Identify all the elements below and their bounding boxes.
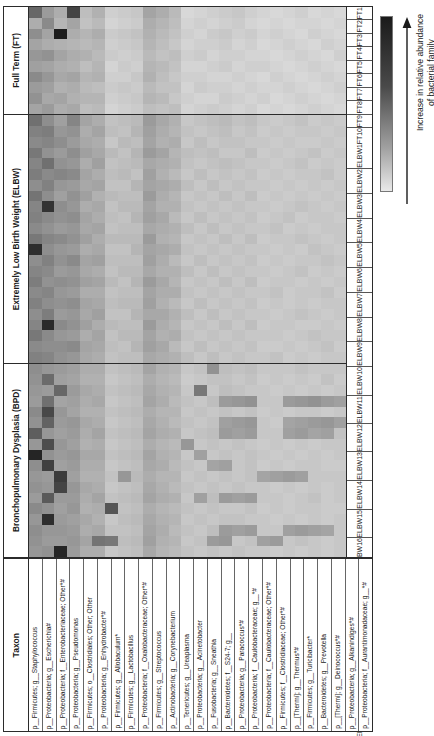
heatmap-cell <box>181 287 194 298</box>
heatmap-row <box>29 126 346 137</box>
heatmap-cell <box>156 180 169 191</box>
heatmap-cell <box>80 514 93 525</box>
heatmap-cell <box>118 180 131 191</box>
heatmap-row <box>29 374 346 385</box>
heatmap-cell <box>232 72 245 83</box>
heatmap-cell <box>270 29 283 40</box>
heatmap-cell <box>219 407 232 418</box>
heatmap-cell <box>118 417 131 428</box>
heatmap-cell <box>92 148 105 159</box>
heatmap-cell <box>105 525 118 536</box>
heatmap-cell <box>245 385 258 396</box>
heatmap-cell <box>295 514 308 525</box>
heatmap-cell <box>321 277 334 288</box>
heatmap-cell <box>143 396 156 407</box>
heatmap-cell <box>105 460 118 471</box>
heatmap-cell <box>131 309 144 320</box>
heatmap-cell <box>156 352 169 363</box>
heatmap-cell <box>54 546 67 557</box>
heatmap-cell <box>42 7 55 18</box>
heatmap-cell <box>67 546 80 557</box>
heatmap-cell <box>67 374 80 385</box>
heatmap-cell <box>308 72 321 83</box>
taxon-axis: Taxon p__Firmicutes; g__Staphylococcusp_… <box>3 558 373 732</box>
heatmap-cell <box>80 450 93 461</box>
heatmap-cell <box>219 450 232 461</box>
heatmap-cell <box>29 352 42 363</box>
heatmap-cell <box>143 7 156 18</box>
heatmap-cell <box>295 234 308 245</box>
heatmap-group-bpd <box>29 363 346 557</box>
heatmap-cell <box>270 450 283 461</box>
heatmap-cell <box>232 223 245 234</box>
sample-label-text: ELBW14 <box>356 481 363 509</box>
heatmap-cell <box>169 169 182 180</box>
heatmap-cell <box>334 320 347 331</box>
heatmap-cell <box>54 158 67 169</box>
heatmap-cell <box>169 180 182 191</box>
heatmap-cell <box>181 396 194 407</box>
heatmap-cell <box>295 277 308 288</box>
heatmap-cell <box>156 212 169 223</box>
heatmap-row <box>29 18 346 29</box>
heatmap-cell <box>131 61 144 72</box>
heatmap-cell <box>219 309 232 320</box>
heatmap-cell <box>321 330 334 341</box>
heatmap-cell <box>207 460 220 471</box>
heatmap-cell <box>321 514 334 525</box>
heatmap-cell <box>270 407 283 418</box>
heatmap-cell <box>67 277 80 288</box>
heatmap-cell <box>194 18 207 29</box>
heatmap-cell <box>169 287 182 298</box>
heatmap-cell <box>245 450 258 461</box>
heatmap-cell <box>92 450 105 461</box>
heatmap-cell <box>207 201 220 212</box>
heatmap-cell <box>156 374 169 385</box>
heatmap-row <box>29 298 346 309</box>
heatmap-cell <box>308 212 321 223</box>
heatmap-cell <box>219 385 232 396</box>
heatmap-cell <box>245 126 258 137</box>
heatmap-cell <box>194 7 207 18</box>
sample-label-text: FT2 <box>356 20 363 32</box>
heatmap-cell <box>143 169 156 180</box>
taxon-label-9: p__Firmicutes; g__Streptococcus <box>153 559 167 731</box>
heatmap-cell <box>80 503 93 514</box>
heatmap-cell <box>308 7 321 18</box>
heatmap-cell <box>156 82 169 93</box>
sample-label-text: ELBW11 <box>356 396 363 423</box>
heatmap-cell <box>118 29 131 40</box>
heatmap-cell <box>42 126 55 137</box>
heatmap-cell <box>105 396 118 407</box>
heatmap-cell <box>67 61 80 72</box>
heatmap-cell <box>42 536 55 547</box>
heatmap-cell <box>194 407 207 418</box>
heatmap-cell <box>334 212 347 223</box>
heatmap-cell <box>270 396 283 407</box>
heatmap-cell <box>219 18 232 29</box>
heatmap-cell <box>169 320 182 331</box>
heatmap-cell <box>131 234 144 245</box>
heatmap-cell <box>245 396 258 407</box>
heatmap-cell <box>219 104 232 115</box>
heatmap-cell <box>334 158 347 169</box>
heatmap-cell <box>334 450 347 461</box>
heatmap-cell <box>131 39 144 50</box>
heatmap-cell <box>29 493 42 504</box>
heatmap-cell <box>334 428 347 439</box>
heatmap-cell <box>295 471 308 482</box>
heatmap-cell <box>105 255 118 266</box>
heatmap-cell <box>29 104 42 115</box>
heatmap-cell <box>232 536 245 547</box>
taxon-label-4: p__Firmicutes; o__Clostridiales; Other; … <box>84 559 98 731</box>
heatmap-cell <box>67 525 80 536</box>
heatmap-cell <box>67 439 80 450</box>
heatmap-cell <box>194 330 207 341</box>
heatmap-cell <box>169 503 182 514</box>
heatmap-cell <box>156 234 169 245</box>
heatmap-cell <box>131 266 144 277</box>
heatmap-cell <box>257 169 270 180</box>
heatmap-cell <box>270 61 283 72</box>
heatmap-cell <box>54 364 67 375</box>
heatmap-cell <box>194 287 207 298</box>
